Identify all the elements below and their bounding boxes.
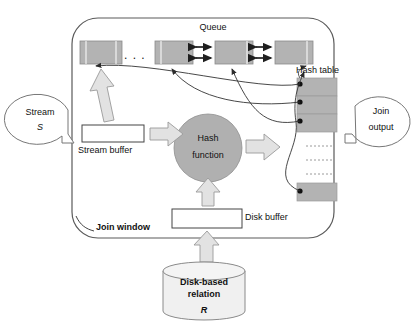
hash-table-label: Hash table xyxy=(296,65,339,75)
disk-buffer-label: Disk buffer xyxy=(245,212,288,222)
hash-function-circle xyxy=(174,114,242,182)
join-output-label-line2: output xyxy=(353,122,409,132)
hash-function-label-line1: Hash xyxy=(178,133,238,143)
stream-buffer-label: Stream buffer xyxy=(78,145,132,155)
hash-table-omitted-rows xyxy=(306,146,332,174)
disk-buffer-box xyxy=(172,209,242,228)
block-arrow-diskbuffer-to-hash xyxy=(196,178,220,206)
queue-cells xyxy=(80,41,313,64)
hash-table-cell xyxy=(297,114,337,132)
stream-callout-label-line1: Stream xyxy=(12,107,68,117)
hash-table-cells xyxy=(297,78,337,201)
join-output-label-line1: Join xyxy=(353,106,409,116)
relation-label-line1: Disk-based xyxy=(164,277,244,287)
queue-label: Queue xyxy=(183,22,243,32)
diagram-canvas: Queue . . . Hash table Hash function Str… xyxy=(0,0,413,328)
relation-label-line3: R xyxy=(164,305,244,315)
hash-function-label-line2: function xyxy=(178,150,238,160)
stream-buffer-box xyxy=(82,125,144,142)
stream-callout-shape xyxy=(4,94,74,144)
block-arrow-relation-to-diskbuffer xyxy=(194,231,219,262)
join-window-label: Join window xyxy=(96,222,150,232)
hash-table-cell xyxy=(297,96,337,114)
block-arrow-hash-to-output xyxy=(246,134,280,160)
hash-table-cell xyxy=(297,78,337,96)
stream-callout-label-line2: S xyxy=(12,122,68,132)
relation-label-line2: relation xyxy=(164,289,244,299)
queue-ellipsis: . . . xyxy=(124,50,146,60)
block-arrow-stream-to-queue xyxy=(90,69,114,122)
hash-table-cell xyxy=(297,183,337,201)
